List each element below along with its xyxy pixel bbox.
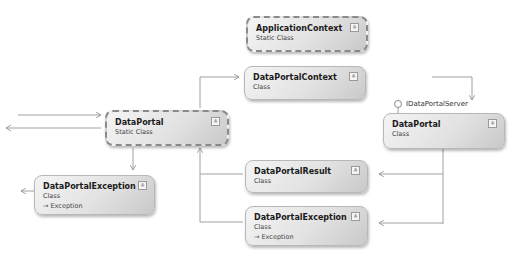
shape-title: DataPortalException	[43, 182, 136, 191]
expand-toggle-icon[interactable]: ≚	[349, 72, 358, 81]
shape-data-portal-class[interactable]: DataPortal Class ≚	[383, 113, 505, 149]
shape-title: DataPortal	[392, 120, 441, 129]
shape-title: DataPortalContext	[253, 73, 337, 82]
shape-kind: Class	[253, 83, 270, 91]
interface-label: IDataPortalServer	[406, 100, 468, 108]
shape-application-context[interactable]: ApplicationContext Static Class ≚	[246, 16, 368, 52]
expand-toggle-icon[interactable]: ≚	[488, 119, 497, 128]
shape-kind: Class	[254, 223, 271, 231]
shape-data-portal-result[interactable]: DataPortalResult Class ≚	[245, 160, 368, 193]
expand-toggle-icon[interactable]: ≚	[138, 181, 147, 190]
expand-toggle-icon[interactable]: ≚	[211, 117, 220, 126]
shape-kind: Static Class	[256, 34, 294, 42]
shape-kind: Class	[254, 177, 271, 185]
interface-lollipop-icon	[395, 101, 402, 108]
shape-kind: Class	[392, 130, 409, 138]
shape-kind: Static Class	[115, 128, 153, 136]
shape-title: DataPortalResult	[254, 167, 331, 176]
shape-data-portal-context[interactable]: DataPortalContext Class ≚	[244, 66, 366, 100]
shape-base-class: → Exception	[43, 202, 83, 210]
shape-title: ApplicationContext	[256, 24, 342, 33]
shape-title: DataPortal	[115, 118, 164, 127]
shape-base-class: → Exception	[254, 233, 294, 241]
expand-toggle-icon[interactable]: ≚	[351, 166, 360, 175]
shape-title: DataPortalException	[254, 213, 347, 222]
shape-kind: Class	[43, 192, 60, 200]
expand-toggle-icon[interactable]: ≚	[351, 212, 360, 221]
shape-data-portal-exception-left[interactable]: DataPortalException Class → Exception ≚	[34, 175, 155, 215]
expand-toggle-icon[interactable]: ≚	[350, 23, 359, 32]
shape-data-portal-static[interactable]: DataPortal Static Class ≚	[105, 110, 229, 146]
shape-data-portal-exception-right[interactable]: DataPortalException Class → Exception ≚	[245, 206, 368, 246]
